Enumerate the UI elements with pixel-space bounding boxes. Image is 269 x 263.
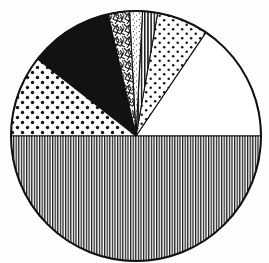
pie-chart-figure [0,0,269,263]
pie-chart-canvas [0,0,269,263]
pie-slice-dense-vertical-lines[interactable] [11,136,261,261]
pie-sectors [11,11,261,261]
